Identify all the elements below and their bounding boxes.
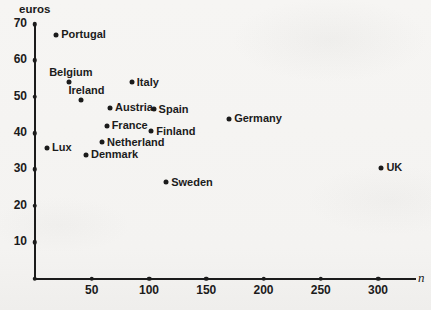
origin-tick-dot: [32, 276, 37, 281]
scatter-plot-figure: euros n 1020304050607050100150200250300P…: [0, 0, 431, 310]
y-tick-label: 30: [1, 161, 27, 175]
y-tick-dot: [32, 58, 37, 63]
x-tick-label: 250: [311, 283, 331, 297]
data-point-dot: [45, 145, 50, 150]
x-axis-title: n: [418, 270, 425, 286]
data-point-dot: [227, 116, 232, 121]
y-tick-label: 60: [1, 52, 27, 66]
data-point-label: Italy: [137, 76, 159, 88]
y-tick-dot: [32, 131, 37, 136]
x-tick-label: 300: [368, 283, 388, 297]
data-point-label: Sweden: [171, 176, 213, 188]
y-tick-dot: [32, 94, 37, 99]
data-point-dot: [149, 129, 154, 134]
x-tick-label: 50: [85, 283, 98, 297]
data-point-dot: [100, 140, 105, 145]
plot-area: euros n 1020304050607050100150200250300P…: [0, 0, 431, 310]
x-tick-label: 200: [253, 283, 273, 297]
data-point-dot: [379, 165, 384, 170]
data-point-dot: [84, 152, 89, 157]
y-tick-dot: [32, 167, 37, 172]
x-tick-dot: [376, 276, 381, 281]
data-point-label: UK: [386, 161, 402, 173]
y-tick-label: 70: [1, 16, 27, 30]
data-point-label: Belgium: [49, 66, 92, 78]
y-tick-label: 50: [1, 89, 27, 103]
x-tick-dot: [90, 276, 95, 281]
y-tick-label: 40: [1, 125, 27, 139]
x-tick-dot: [261, 276, 266, 281]
y-tick-dot: [32, 22, 37, 27]
x-tick-dot: [147, 276, 152, 281]
data-point-label: Netherland: [107, 136, 164, 148]
data-point-label: Ireland: [68, 84, 104, 96]
x-tick-label: 100: [139, 283, 159, 297]
data-point-label: France: [112, 119, 148, 131]
data-point-dot: [151, 107, 156, 112]
y-tick-dot: [32, 204, 37, 209]
data-point-dot: [54, 32, 59, 37]
y-tick-label: 10: [1, 234, 27, 248]
data-point-label: Portugal: [61, 28, 106, 40]
data-point-dot: [79, 98, 84, 103]
data-point-label: Lux: [52, 141, 72, 153]
x-tick-label: 150: [196, 283, 216, 297]
data-point-label: Denmark: [91, 148, 138, 160]
y-tick-dot: [32, 240, 37, 245]
x-tick-dot: [319, 276, 324, 281]
data-point-label: Austria: [115, 101, 153, 113]
data-point-dot: [164, 180, 169, 185]
x-tick-dot: [204, 276, 209, 281]
data-point-dot: [104, 123, 109, 128]
data-point-dot: [108, 105, 113, 110]
data-point-label: Spain: [159, 103, 189, 115]
data-point-label: Germany: [234, 112, 282, 124]
data-point-dot: [129, 80, 134, 85]
y-axis-title: euros: [19, 3, 50, 15]
y-tick-label: 20: [1, 198, 27, 212]
